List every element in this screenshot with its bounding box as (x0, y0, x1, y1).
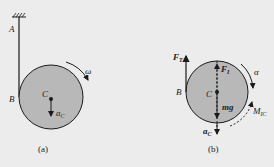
caption-a: (a) (38, 144, 48, 154)
label-ac2: aC (203, 126, 213, 137)
label-alpha: α (254, 67, 259, 77)
label-ft: FT (172, 52, 183, 63)
label-b: B (9, 94, 15, 104)
diagram-canvas: A B C ω aC (a) FT B C FI mg α MIC aC (b) (0, 0, 274, 167)
label-a: A (8, 24, 15, 34)
hatch-icon (13, 13, 25, 17)
figure-a: A B C ω aC (a) (8, 13, 91, 154)
label-mic: MIC (252, 106, 267, 117)
caption-b: (b) (208, 144, 219, 154)
figure-b: FT B C FI mg α MIC aC (b) (172, 52, 267, 154)
label-omega: ω (85, 66, 91, 76)
label-c: C (42, 89, 49, 99)
label-mg: mg (222, 102, 234, 112)
label-c2: C (206, 89, 213, 99)
label-b2: B (176, 87, 182, 97)
center-point-b (215, 90, 219, 94)
